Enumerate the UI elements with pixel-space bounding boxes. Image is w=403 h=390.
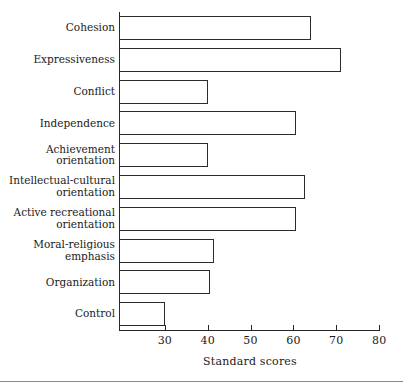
bar — [119, 270, 210, 294]
bar — [119, 80, 208, 104]
bar — [119, 175, 305, 199]
bar-chart: CohesionExpressivenessConflictIndependen… — [0, 0, 403, 390]
x-axis-tick — [293, 325, 294, 331]
category-label: Intellectual-cultural orientation — [1, 175, 115, 198]
category-label: Independence — [1, 118, 115, 130]
bar — [119, 143, 208, 167]
x-axis-tick — [208, 325, 209, 331]
x-axis-tick — [165, 325, 166, 331]
bottom-divider — [0, 381, 403, 382]
x-axis-tick-label: 70 — [316, 334, 356, 347]
x-axis-tick-label: 60 — [273, 334, 313, 347]
x-axis-title: Standard scores — [119, 355, 381, 368]
category-label: Cohesion — [1, 22, 115, 34]
x-axis-line — [119, 330, 380, 331]
category-label: Achievement orientation — [1, 144, 115, 167]
category-label-group: CohesionExpressivenessConflictIndependen… — [0, 12, 115, 330]
bar — [119, 302, 165, 326]
category-label: Moral-religious emphasis — [1, 239, 115, 262]
bar — [119, 239, 214, 263]
category-label: Expressiveness — [1, 54, 115, 66]
x-axis-tick — [336, 325, 337, 331]
bar — [119, 48, 341, 72]
x-axis-tick — [379, 325, 380, 331]
category-label: Active recreational orientation — [1, 207, 115, 230]
x-axis-tick-label: 80 — [359, 334, 399, 347]
bar — [119, 111, 296, 135]
category-label: Control — [1, 308, 115, 320]
plot-area: 304050607080 — [119, 12, 381, 330]
category-label: Conflict — [1, 86, 115, 98]
bar — [119, 207, 296, 231]
x-axis-tick-label: 50 — [231, 334, 271, 347]
x-axis-tick-label: 40 — [188, 334, 228, 347]
x-axis-tick — [251, 325, 252, 331]
x-axis-tick-label: 30 — [145, 334, 185, 347]
bar — [119, 16, 311, 40]
category-label: Organization — [1, 277, 115, 289]
